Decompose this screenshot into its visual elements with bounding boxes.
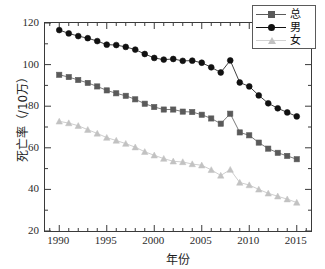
- legend-item-male[interactable]: 男: [256, 21, 312, 34]
- y-tick-40: 40: [11, 183, 39, 194]
- legend-item-total[interactable]: 总: [256, 8, 312, 21]
- legend-swatch-square-icon: [256, 8, 286, 21]
- y-axis-label: 死亡率（/10万）: [13, 52, 30, 182]
- plot-area: [44, 22, 312, 232]
- x-tick-2015: 2015: [276, 235, 316, 246]
- x-tick-1990: 1990: [38, 235, 78, 246]
- y-tick-120: 120: [11, 17, 39, 28]
- chart-figure: 20406080100120 199019952000200520102015 …: [0, 0, 325, 269]
- legend-label-total: 总: [286, 8, 301, 21]
- x-tick-2010: 2010: [228, 235, 268, 246]
- legend-swatch-triangle-icon: [256, 34, 286, 47]
- legend-label-female: 女: [286, 34, 301, 47]
- plot-canvas: [45, 23, 311, 231]
- x-axis-label: 年份: [44, 250, 312, 267]
- x-tick-1995: 1995: [86, 235, 126, 246]
- legend-swatch-circle-icon: [256, 21, 286, 34]
- legend-item-female[interactable]: 女: [256, 34, 312, 47]
- x-tick-2000: 2000: [133, 235, 173, 246]
- x-tick-2005: 2005: [181, 235, 221, 246]
- y-tick-20: 20: [11, 225, 39, 236]
- chart-legend: 总 男 女: [252, 5, 316, 49]
- legend-label-male: 男: [286, 21, 301, 34]
